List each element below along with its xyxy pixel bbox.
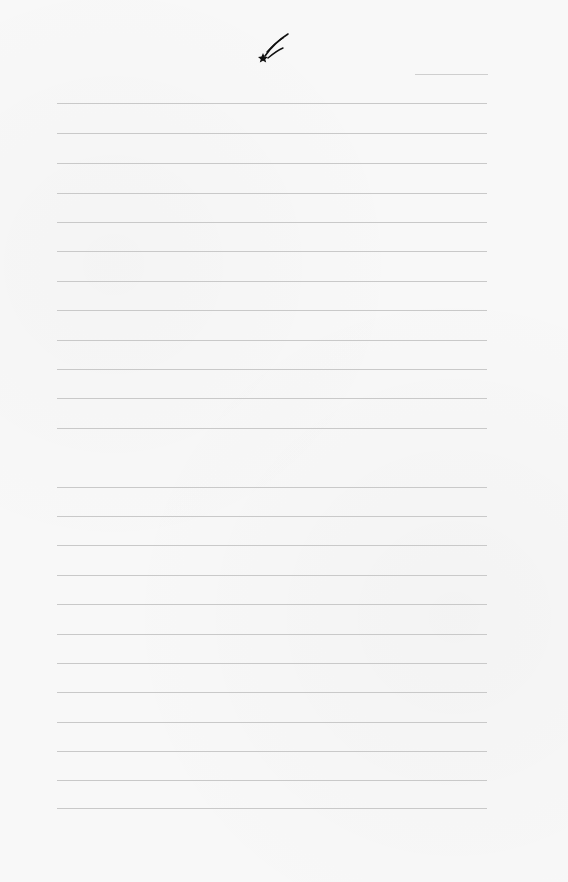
ruled-line	[57, 310, 487, 311]
shooting-star-icon	[256, 30, 296, 64]
ruled-line	[57, 545, 487, 546]
ruled-line	[57, 751, 487, 752]
ruled-line	[57, 575, 487, 576]
ruled-line	[57, 281, 487, 282]
ruled-line	[57, 133, 487, 134]
ruled-line	[57, 692, 487, 693]
ruled-line	[57, 222, 487, 223]
ruled-line	[57, 780, 487, 781]
ruled-line	[57, 487, 487, 488]
ruled-line	[57, 663, 487, 664]
ruled-line	[57, 369, 487, 370]
ruled-line	[57, 251, 487, 252]
ruled-line	[57, 398, 487, 399]
ruled-line	[57, 193, 487, 194]
ruled-line	[57, 428, 487, 429]
ruled-line	[57, 634, 487, 635]
ruled-line	[57, 808, 487, 809]
ruled-line	[57, 103, 487, 104]
date-line	[415, 74, 488, 75]
stationery-page	[0, 0, 568, 882]
ruled-line	[57, 516, 487, 517]
ruled-line	[57, 604, 487, 605]
ruled-line	[57, 340, 487, 341]
ruled-line	[57, 722, 487, 723]
ruled-line	[57, 163, 487, 164]
